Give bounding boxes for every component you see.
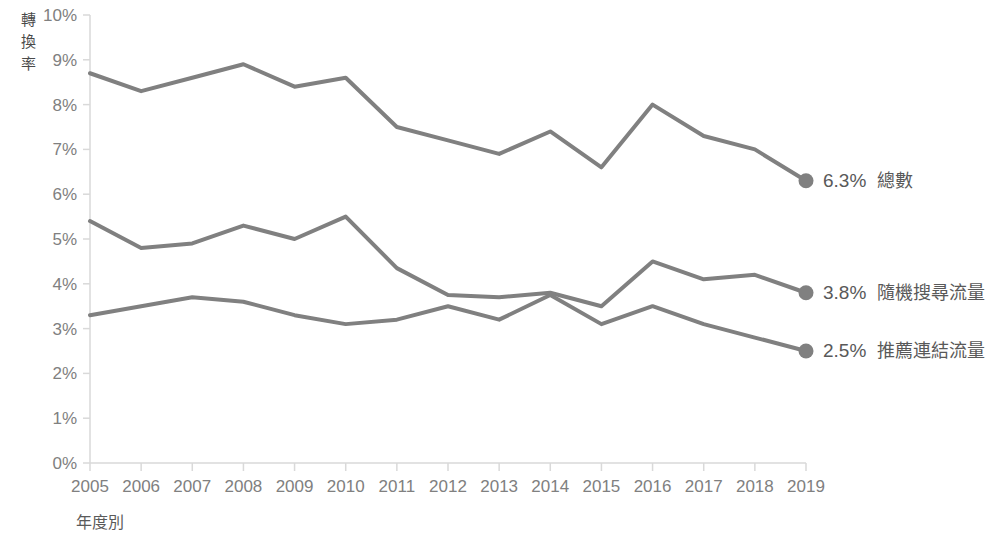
series-end-value: 2.5% bbox=[823, 340, 866, 361]
series-line-2 bbox=[90, 295, 806, 351]
x-tick-label: 2005 bbox=[71, 477, 109, 496]
y-tick-label: 7% bbox=[52, 140, 77, 159]
x-tick-label: 2016 bbox=[634, 477, 672, 496]
chart-canvas: 轉換率 0%1%2%3%4%5%6%7%8%9%10% 200520062007… bbox=[0, 0, 988, 549]
x-axis-tick-labels: 2005200620072008200920102011201220132014… bbox=[71, 463, 825, 496]
x-tick-label: 2015 bbox=[583, 477, 621, 496]
x-tick-label: 2011 bbox=[379, 477, 416, 496]
x-tick-label: 2013 bbox=[480, 477, 518, 496]
x-tick-label: 2006 bbox=[122, 477, 160, 496]
series-endpoints bbox=[799, 173, 814, 358]
y-tick-label: 1% bbox=[52, 409, 77, 428]
y-axis-title-char: 換 bbox=[21, 33, 36, 50]
x-tick-label: 2014 bbox=[531, 477, 569, 496]
series-end-name: 隨機搜尋流量 bbox=[877, 283, 985, 303]
series-endpoint-marker bbox=[799, 344, 814, 359]
x-tick-label: 2009 bbox=[276, 477, 314, 496]
series-line-1 bbox=[90, 217, 806, 307]
series-end-value: 3.8% bbox=[823, 282, 866, 303]
y-tick-label: 9% bbox=[52, 51, 77, 70]
series-end-name: 總數 bbox=[877, 171, 913, 191]
y-tick-label: 6% bbox=[52, 185, 77, 204]
x-tick-label: 2007 bbox=[173, 477, 211, 496]
x-tick-label: 2019 bbox=[787, 477, 825, 496]
x-axis-title: 年度別 bbox=[76, 514, 124, 531]
series-lines bbox=[90, 64, 806, 351]
y-tick-label: 2% bbox=[52, 364, 77, 383]
y-axis-title: 轉換率 bbox=[21, 11, 36, 72]
y-tick-label: 5% bbox=[52, 230, 77, 249]
series-line-0 bbox=[90, 64, 806, 180]
y-axis-tick-labels: 0%1%2%3%4%5%6%7%8%9%10% bbox=[43, 6, 90, 473]
y-tick-label: 10% bbox=[43, 6, 77, 25]
y-axis-title-char: 率 bbox=[21, 55, 36, 72]
x-tick-label: 2017 bbox=[685, 477, 723, 496]
series-endpoint-marker bbox=[799, 285, 814, 300]
y-axis-title-char: 轉 bbox=[21, 11, 36, 28]
series-end-value: 6.3% bbox=[823, 170, 866, 191]
series-endpoint-marker bbox=[799, 173, 814, 188]
x-tick-label: 2012 bbox=[429, 477, 467, 496]
y-tick-label: 0% bbox=[52, 454, 77, 473]
y-tick-label: 3% bbox=[52, 320, 77, 339]
line-chart: 轉換率 0%1%2%3%4%5%6%7%8%9%10% 200520062007… bbox=[0, 0, 988, 549]
series-end-name: 推薦連結流量 bbox=[877, 341, 985, 361]
x-tick-label: 2010 bbox=[327, 477, 365, 496]
x-tick-label: 2018 bbox=[736, 477, 774, 496]
y-tick-label: 8% bbox=[52, 96, 77, 115]
series-end-labels: 6.3%總數3.8%隨機搜尋流量2.5%推薦連結流量 bbox=[823, 170, 985, 361]
x-tick-label: 2008 bbox=[225, 477, 263, 496]
y-tick-label: 4% bbox=[52, 275, 77, 294]
